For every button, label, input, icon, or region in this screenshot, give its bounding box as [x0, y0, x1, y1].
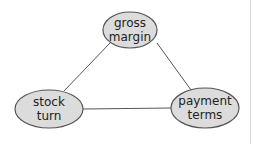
node-label: margin	[109, 30, 151, 44]
diagram-nodes: grossmarginstockturnpaymentterms	[15, 12, 239, 128]
node-label: gross	[114, 16, 146, 30]
node-payment-terms: paymentterms	[171, 88, 239, 128]
diagram-edges	[64, 43, 191, 109]
node-label: stock	[33, 95, 65, 109]
node-stock-turn: stockturn	[15, 90, 83, 128]
edge-stock-turn-to-payment-terms	[83, 108, 171, 109]
node-label: payment	[178, 94, 232, 108]
edge-gross-margin-to-stock-turn	[64, 43, 110, 91]
node-gross-margin: grossmargin	[103, 12, 157, 48]
node-label: turn	[37, 109, 62, 123]
edge-gross-margin-to-payment-terms	[157, 43, 191, 90]
node-label: terms	[188, 108, 223, 122]
relationship-diagram: grossmarginstockturnpaymentterms	[0, 0, 254, 144]
